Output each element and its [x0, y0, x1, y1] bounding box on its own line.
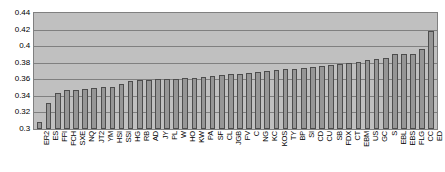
bar[interactable] — [346, 63, 352, 129]
y-tick-label: 0.42 — [15, 26, 30, 34]
x-tick-slot: CU — [318, 130, 327, 172]
bar[interactable] — [310, 67, 316, 129]
bar-slot — [327, 13, 336, 129]
bar[interactable] — [365, 60, 371, 129]
bar[interactable] — [274, 70, 280, 129]
bar[interactable] — [292, 69, 298, 129]
x-tick-slot: NG — [254, 130, 263, 172]
x-tick-slot: JT2 — [89, 130, 98, 172]
x-tick-slot: FCH — [61, 130, 70, 172]
bar[interactable] — [73, 90, 79, 129]
x-tick-slot: BP — [290, 130, 299, 172]
bar[interactable] — [182, 78, 188, 129]
x-tick-slot: SSI — [116, 130, 125, 172]
y-axis: 0.440.420.40.380.360.340.320.3 — [0, 0, 33, 172]
x-tick-slot: HO — [181, 130, 190, 172]
bar-slot — [217, 13, 226, 129]
bar[interactable] — [401, 54, 407, 129]
bar[interactable] — [64, 90, 70, 129]
bar[interactable] — [219, 75, 225, 129]
bar-slot — [399, 13, 408, 129]
bar[interactable] — [192, 78, 198, 129]
bar-slot — [153, 13, 162, 129]
x-tick-slot: SF — [208, 130, 217, 172]
bar[interactable] — [428, 31, 434, 129]
bar[interactable] — [164, 79, 170, 129]
x-tick-slot: YM — [98, 130, 107, 172]
bar[interactable] — [82, 89, 88, 129]
bar[interactable] — [419, 49, 425, 129]
bar-slot — [281, 13, 290, 129]
x-tick-slot: W — [171, 130, 180, 172]
bar[interactable] — [37, 122, 43, 129]
y-tick-label: 0.34 — [15, 92, 30, 100]
bar[interactable] — [283, 69, 289, 129]
bar-slot — [235, 13, 244, 129]
bar[interactable] — [255, 72, 261, 129]
y-tick-label: 0.38 — [15, 59, 30, 67]
bar[interactable] — [46, 103, 52, 129]
bar[interactable] — [55, 93, 61, 129]
bar[interactable] — [137, 80, 143, 129]
x-tick-slot: PA — [199, 130, 208, 172]
bar[interactable] — [201, 77, 207, 129]
bar[interactable] — [246, 73, 252, 129]
bar[interactable] — [128, 81, 134, 129]
bar-slot — [254, 13, 263, 129]
bar[interactable] — [119, 84, 125, 129]
bar-slot — [290, 13, 299, 129]
bar[interactable] — [328, 65, 334, 129]
x-tick-slot: CC — [419, 130, 428, 172]
bar[interactable] — [91, 88, 97, 129]
bar-slot — [81, 13, 90, 129]
bar-slot — [317, 13, 326, 129]
bar[interactable] — [337, 64, 343, 129]
bar-slot — [62, 13, 71, 129]
x-tick-slot: EBL — [391, 130, 400, 172]
bar[interactable] — [237, 74, 243, 130]
bar-slot — [308, 13, 317, 129]
bar[interactable] — [392, 54, 398, 129]
bar-slot — [135, 13, 144, 129]
bar[interactable] — [319, 66, 325, 129]
bar[interactable] — [173, 79, 179, 129]
x-tick-slot: NQ — [80, 130, 89, 172]
x-tick-slot: KW — [190, 130, 199, 172]
x-tick-slot: FDX — [336, 130, 345, 172]
bar[interactable] — [383, 58, 389, 129]
x-tick-slot: HG — [126, 130, 135, 172]
x-tick-slot: RB — [135, 130, 144, 172]
x-axis: ER2ESFFIFCHSXENQJT2YMHSISSIHGRBADJYPLWHO… — [33, 130, 438, 172]
bar[interactable] — [210, 76, 216, 129]
bar-slot — [126, 13, 135, 129]
y-tick-label: 0.44 — [15, 9, 30, 17]
bar-slot — [381, 13, 390, 129]
x-tick-slot: FFI — [52, 130, 61, 172]
y-tick-label: 0.4 — [19, 42, 30, 50]
bar-slot — [199, 13, 208, 129]
bar[interactable] — [110, 87, 116, 129]
bar-slot — [345, 13, 354, 129]
bar[interactable] — [228, 74, 234, 129]
bar[interactable] — [301, 68, 307, 129]
plot-area — [33, 12, 438, 130]
bar[interactable] — [356, 62, 362, 129]
bar[interactable] — [101, 87, 107, 129]
bar-slot — [354, 13, 363, 129]
bar[interactable] — [410, 54, 416, 129]
x-tick-slot: JY — [153, 130, 162, 172]
x-tick-slot: ER2 — [34, 130, 43, 172]
x-tick-slot: KOS — [272, 130, 281, 172]
bar[interactable] — [264, 71, 270, 129]
bar-slot — [408, 13, 417, 129]
x-tick-slot: CL — [217, 130, 226, 172]
bar[interactable] — [374, 59, 380, 129]
x-tick-slot: PL — [162, 130, 171, 172]
x-tick-slot: SB — [327, 130, 336, 172]
bar[interactable] — [155, 79, 161, 129]
x-tick-slot: SI — [300, 130, 309, 172]
bar[interactable] — [146, 80, 152, 129]
x-tick-slot: KC — [263, 130, 272, 172]
x-tick-slot: US — [364, 130, 373, 172]
bar-slot — [363, 13, 372, 129]
